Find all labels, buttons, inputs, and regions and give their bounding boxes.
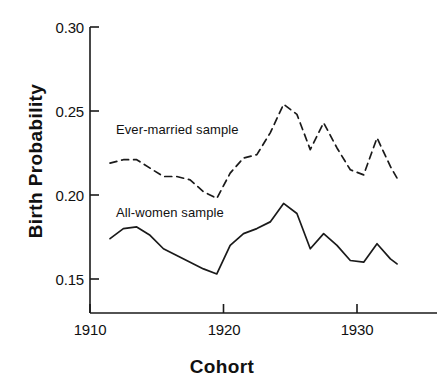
y-axis-title: Birth Probability	[25, 51, 47, 271]
y-tick-0.30: 0.30	[32, 19, 84, 35]
y-tick-label: 0.15	[32, 271, 84, 288]
x-tick-label-1910: 1910	[60, 321, 120, 338]
y-tick-0.25: 0.25	[32, 103, 84, 119]
y-tick-label: 0.30	[32, 19, 84, 36]
y-tick-label: 0.20	[32, 187, 84, 204]
annotation-all-women-sample: All-women sample	[116, 205, 224, 220]
chart-figure: Birth Probability Cohort 0.30 0.25 0.20 …	[0, 0, 444, 390]
x-axis-title: Cohort	[0, 356, 444, 378]
x-tick-label-1920: 1920	[194, 321, 254, 338]
y-tick-0.20: 0.20	[32, 187, 84, 203]
axis-lines	[90, 27, 437, 313]
annotation-ever-married-sample: Ever-married sample	[116, 122, 239, 137]
y-tick-label: 0.25	[32, 103, 84, 120]
series-line-ever-married-sample	[110, 104, 397, 198]
y-tick-0.15: 0.15	[32, 271, 84, 287]
x-tick-label-1930: 1930	[327, 321, 387, 338]
axis-ticks	[90, 27, 357, 313]
